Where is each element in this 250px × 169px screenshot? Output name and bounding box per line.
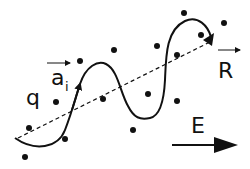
obstacle-dot bbox=[22, 154, 28, 160]
end-to-end-dashed-line bbox=[18, 42, 210, 138]
chain-end-arrowhead bbox=[203, 33, 214, 46]
field-arrowhead-icon bbox=[214, 137, 238, 153]
obstacle-dot bbox=[174, 98, 180, 104]
obstacle-dot bbox=[130, 127, 136, 133]
obstacle-dot bbox=[221, 20, 227, 26]
segment-arrow-ai bbox=[72, 84, 80, 110]
obstacle-dot bbox=[53, 99, 59, 105]
label-a: a bbox=[51, 65, 64, 90]
obstacle-dot bbox=[174, 52, 180, 58]
obstacle-dot bbox=[154, 43, 160, 49]
obstacle-dot bbox=[26, 125, 32, 131]
obstacle-dot bbox=[198, 32, 204, 38]
label-q: q bbox=[26, 85, 40, 110]
label-E: E bbox=[191, 113, 205, 138]
obstacle-dot bbox=[77, 58, 83, 64]
diagram: q a i R E bbox=[0, 0, 250, 169]
obstacle-dot bbox=[145, 91, 151, 97]
obstacle-dot bbox=[111, 47, 117, 53]
chain-path bbox=[15, 19, 211, 146]
label-R: R bbox=[218, 58, 233, 83]
label-a-subscript: i bbox=[65, 79, 69, 94]
obstacle-dot bbox=[181, 10, 187, 16]
obstacle-dot bbox=[62, 136, 68, 142]
